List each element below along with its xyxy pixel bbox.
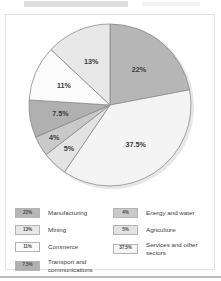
legend-label-agriculture: Agriculture — [146, 226, 176, 233]
pie-slice-label: 5% — [64, 144, 75, 153]
legend-swatch-mining: 13% — [15, 225, 40, 235]
pie-slice-label: 4% — [49, 133, 60, 142]
legend-item-mining[interactable]: 13% Mining — [15, 223, 113, 237]
header-bar-fragment-secondary — [142, 2, 200, 6]
legend-label-manufacturing: Manufacturing — [48, 209, 87, 216]
header-bar-fragment — [24, 1, 128, 7]
legend-label-transport-and-communications: Transport and communications — [48, 258, 113, 273]
legend-swatch-transport-and-communications: 7.5% — [15, 261, 40, 271]
pie-slice-label: 13% — [84, 57, 99, 66]
pie-slice-label: 22% — [132, 65, 147, 74]
pie-slice-label: 37.5% — [126, 140, 147, 149]
page-bottom-rule — [0, 276, 221, 278]
legend-swatch-value: 5% — [122, 228, 128, 233]
legend-label-commerce: Commerce — [48, 243, 78, 250]
legend-swatch-value: 7.5% — [22, 263, 32, 268]
legend-item-commerce[interactable]: 11% Commerce — [15, 240, 113, 254]
legend-swatch-value: 37.5% — [119, 246, 132, 251]
page-root: 22%37.5%5%4%7.5%11%13% 22% Manufacturing… — [0, 0, 221, 281]
legend-swatch-value: 4% — [122, 211, 128, 216]
pie-chart: 22%37.5%5%4%7.5%11%13% — [16, 19, 204, 191]
legend-swatch-value: 11% — [23, 245, 32, 250]
legend-column-left: 22% Manufacturing 13% Mining 11% Commerc… — [15, 206, 113, 277]
legend-swatch-agriculture: 5% — [113, 225, 138, 235]
pie-slice-label: 11% — [57, 81, 72, 90]
legend-swatch-energy-and-water: 4% — [113, 208, 138, 218]
legend-item-manufacturing[interactable]: 22% Manufacturing — [15, 206, 113, 220]
legend-label-mining: Mining — [48, 226, 66, 233]
chart-legend: 22% Manufacturing 13% Mining 11% Commerc… — [15, 206, 211, 277]
legend-label-services-and-other-sectors: Services and other sectors — [146, 241, 211, 256]
legend-item-agriculture[interactable]: 5% Agriculture — [113, 223, 211, 237]
pie-slice-label: 7.5% — [52, 109, 69, 118]
legend-swatch-services-and-other-sectors: 37.5% — [113, 244, 138, 254]
legend-swatch-value: 22% — [23, 211, 32, 216]
legend-item-services-and-other-sectors[interactable]: 37.5% Services and other sectors — [113, 240, 211, 257]
legend-swatch-manufacturing: 22% — [15, 208, 40, 218]
legend-swatch-value: 13% — [23, 228, 32, 233]
figure-box: 22%37.5%5%4%7.5%11%13% 22% Manufacturing… — [5, 14, 215, 270]
pie-chart-svg: 22%37.5%5%4%7.5%11%13% — [16, 19, 204, 191]
legend-item-energy-and-water[interactable]: 4% Energy and water — [113, 206, 211, 220]
scan-header-strip — [0, 0, 221, 12]
pie-slice-group — [29, 24, 191, 186]
legend-label-energy-and-water: Energy and water — [146, 209, 195, 216]
legend-column-right: 4% Energy and water 5% Agriculture 37.5%… — [113, 206, 211, 277]
legend-item-transport-and-communications[interactable]: 7.5% Transport and communications — [15, 257, 113, 274]
legend-swatch-commerce: 11% — [15, 242, 40, 252]
